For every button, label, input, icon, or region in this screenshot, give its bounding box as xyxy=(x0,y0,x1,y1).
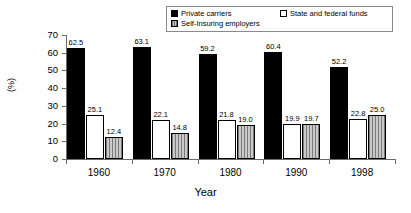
bar xyxy=(133,47,151,159)
x-tick-mark xyxy=(263,160,264,164)
bar xyxy=(86,115,104,159)
x-tick-mark xyxy=(329,160,330,164)
x-tick-mark xyxy=(132,160,133,164)
x-tick-label: 1990 xyxy=(266,167,326,178)
bar-value-label: 21.8 xyxy=(217,111,237,119)
y-tick-label: 40 xyxy=(18,83,58,93)
bar-value-label: 25.0 xyxy=(367,106,387,114)
bar xyxy=(283,124,301,159)
x-axis-line xyxy=(66,159,396,160)
x-tick-mark xyxy=(198,160,199,164)
legend-label-private-carriers: Private carriers xyxy=(181,9,231,18)
bar-value-label: 14.8 xyxy=(170,124,190,132)
legend-label-self-insuring-employers: Self-Insuring employers xyxy=(181,19,260,28)
legend-label-state-and-federal-funds: State and federal funds xyxy=(290,9,368,18)
bar-value-label: 19.7 xyxy=(301,115,321,123)
bar-value-label: 19.9 xyxy=(282,115,302,123)
y-tick-label: 60 xyxy=(18,48,58,58)
plot-area: 62.525.112.463.122.114.859.221.819.060.4… xyxy=(66,35,395,159)
x-tick-label: 1998 xyxy=(332,167,392,178)
bar xyxy=(152,120,170,159)
legend-item-self-insuring-employers: Self-Insuring employers xyxy=(171,19,260,28)
bar-value-label: 19.0 xyxy=(236,116,256,124)
bar xyxy=(105,137,123,159)
bar-value-label: 12.4 xyxy=(104,128,124,136)
y-tick-label: 10 xyxy=(18,136,58,146)
bar-value-label: 22.1 xyxy=(151,111,171,119)
bar-value-label: 60.4 xyxy=(263,43,283,51)
y-tick-label: 70 xyxy=(18,30,58,40)
bar-value-label: 62.5 xyxy=(66,39,86,47)
bar xyxy=(349,119,367,159)
y-tick-label: 50 xyxy=(18,65,58,75)
legend-item-state-and-federal-funds: State and federal funds xyxy=(280,9,368,18)
x-tick-mark xyxy=(66,160,67,164)
x-tick-label: 1960 xyxy=(69,167,129,178)
bar xyxy=(264,52,282,159)
legend-swatch-hatched-gray-icon xyxy=(171,20,178,27)
x-axis-label: Year xyxy=(0,186,411,198)
bar-value-label: 22.8 xyxy=(348,110,368,118)
bar xyxy=(330,67,348,159)
x-tick-label: 1980 xyxy=(201,167,261,178)
y-axis-label: (%) xyxy=(6,78,16,92)
y-tick-label: 0 xyxy=(18,154,58,164)
bar xyxy=(237,125,255,159)
bar xyxy=(302,124,320,159)
bar-value-label: 59.2 xyxy=(198,45,218,53)
bar xyxy=(218,120,236,159)
chart-legend: Private carriers Self-Insuring employers… xyxy=(166,6,393,32)
bar xyxy=(67,48,85,159)
legend-swatch-white-icon xyxy=(280,10,287,17)
bar-value-label: 52.2 xyxy=(329,58,349,66)
legend-item-private-carriers: Private carriers xyxy=(171,9,231,18)
bar-value-label: 63.1 xyxy=(132,38,152,46)
bar xyxy=(199,54,217,159)
bar xyxy=(171,133,189,159)
x-tick-label: 1970 xyxy=(135,167,195,178)
y-tick-label: 30 xyxy=(18,101,58,111)
y-tick-label: 20 xyxy=(18,119,58,129)
x-tick-mark xyxy=(395,160,396,164)
bar-chart: Private carriers Self-Insuring employers… xyxy=(0,0,411,213)
legend-swatch-black-icon xyxy=(171,10,178,17)
bar-value-label: 25.1 xyxy=(85,106,105,114)
bar xyxy=(368,115,386,159)
